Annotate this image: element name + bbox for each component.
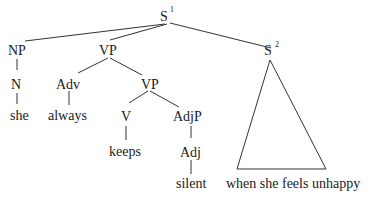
edge-vp-vp xyxy=(110,58,142,75)
node-adj: Adj xyxy=(180,145,201,160)
leaf-she: she xyxy=(10,108,29,123)
node-vp-inner: VP xyxy=(141,77,159,92)
node-s1-superscript: 1 xyxy=(170,5,174,14)
node-vp: VP xyxy=(99,43,117,58)
node-adjp: AdjP xyxy=(173,109,202,124)
edge-s1-vp xyxy=(110,24,167,40)
node-adv: Adv xyxy=(56,77,80,92)
node-v: V xyxy=(121,109,131,124)
triangle-s2 xyxy=(237,60,326,169)
edge-s1-np xyxy=(25,24,165,41)
tree-edges xyxy=(17,23,326,174)
leaf-clause: when she feels unhappy xyxy=(226,176,360,191)
node-n: N xyxy=(11,77,21,92)
syntax-tree: S 1 NP VP S 2 N Adv VP V AdjP Adj she al… xyxy=(0,0,381,212)
node-s2: S xyxy=(264,43,272,58)
edge-vp-v xyxy=(129,91,148,103)
edge-s1-s2 xyxy=(170,23,271,48)
leaf-silent: silent xyxy=(176,176,206,191)
edge-vp-adv xyxy=(78,58,108,73)
leaf-always: always xyxy=(48,108,87,123)
node-s2-superscript: 2 xyxy=(275,40,279,49)
node-np: NP xyxy=(8,43,26,58)
leaf-keeps: keeps xyxy=(109,144,141,159)
edge-vp-adjp xyxy=(150,91,179,107)
node-s1: S xyxy=(160,9,168,24)
